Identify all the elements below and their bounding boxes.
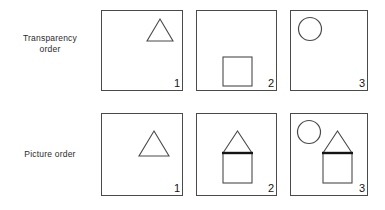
panel-picture-1: 1	[101, 113, 183, 196]
panel-picture-2: 2	[196, 113, 277, 196]
panel-transparency-1: 1	[101, 10, 183, 91]
panel-index-label: 2	[268, 78, 274, 89]
panel-transparency-3: 3	[290, 10, 368, 91]
figure-container: Transparency order 1 2 3 Picture order 1…	[0, 0, 385, 210]
panel-index-label: 1	[174, 183, 180, 194]
shape-group-triangle	[102, 114, 184, 197]
panel-index-label: 1	[174, 78, 180, 89]
shape-group-square	[197, 11, 278, 92]
panel-picture-3: 3	[290, 113, 368, 196]
row-label-transparency-order: Transparency order	[8, 33, 92, 54]
panel-index-label: 2	[268, 183, 274, 194]
shape-group-circle	[291, 11, 369, 92]
panel-transparency-2: 2	[196, 10, 277, 91]
panel-index-label: 3	[359, 78, 365, 89]
shape-group-circle-and-house	[291, 114, 369, 197]
row-label-picture-order: Picture order	[8, 149, 92, 160]
shape-group-house	[197, 114, 278, 197]
shape-group-triangle	[102, 11, 184, 92]
panel-index-label: 3	[359, 183, 365, 194]
